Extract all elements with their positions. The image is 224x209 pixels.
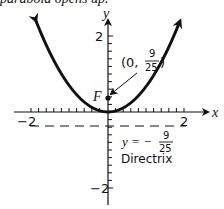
svg-text:(0,: (0, — [121, 55, 138, 70]
x-axis-label: x — [211, 105, 219, 120]
svg-text:25: 25 — [145, 62, 158, 73]
x-tick-label-2: 2 — [180, 114, 188, 129]
y-tick-label-2: 2 — [95, 29, 103, 44]
y-tick-label-neg2: −2 — [90, 181, 109, 196]
svg-text:9: 9 — [149, 48, 155, 59]
parabola-diagram: x −2 2 y 2 −2 — [0, 0, 224, 209]
svg-text:): ) — [160, 55, 165, 70]
x-tick-label-neg2: −2 — [17, 114, 36, 129]
x-axis: x −2 2 — [14, 105, 219, 129]
focus-label: F — [92, 89, 102, 104]
svg-text:y = −: y = − — [120, 134, 152, 149]
focus-point — [105, 95, 110, 100]
svg-text:9: 9 — [163, 130, 169, 141]
y-axis: y 2 −2 — [90, 6, 113, 205]
y-axis-label: y — [101, 6, 110, 21]
directrix-equation: y = − 9 25 — [120, 130, 173, 154]
focus-pointer-arrow — [111, 73, 137, 94]
directrix-label: Directrix — [121, 152, 172, 166]
